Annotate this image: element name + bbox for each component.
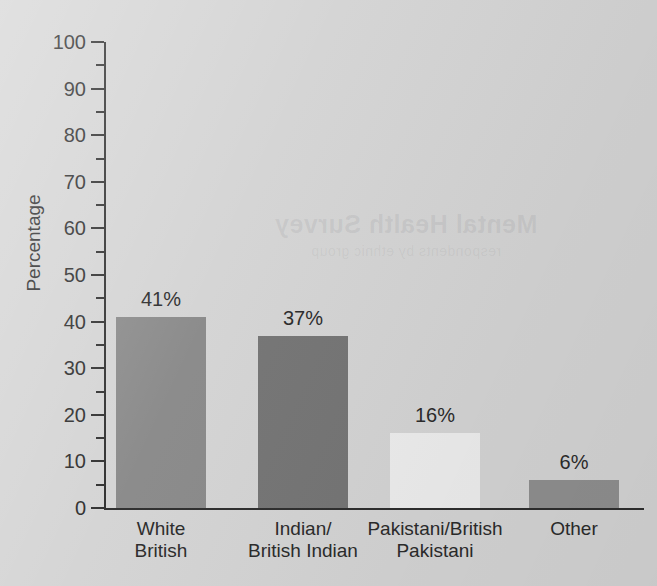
y-tick-major-70: [91, 181, 104, 183]
y-axis-title: Percentage: [23, 163, 45, 323]
y-tick-label-30: 30: [0, 358, 86, 378]
y-tick-minor-65: [96, 204, 104, 206]
bar-value-label: 41%: [96, 289, 226, 309]
bar-value-label: 16%: [370, 405, 500, 425]
y-tick-major-100: [91, 41, 104, 43]
y-tick-minor-15: [96, 437, 104, 439]
y-tick-minor-35: [96, 344, 104, 346]
y-tick-major-0: [91, 507, 104, 509]
y-tick-minor-85: [96, 111, 104, 113]
y-axis-line: [104, 42, 106, 510]
y-tick-major-60: [91, 227, 104, 229]
y-tick-label-100: 100: [0, 32, 86, 52]
y-tick-minor-25: [96, 391, 104, 393]
bar[interactable]: [390, 433, 480, 508]
x-category-label: Other: [494, 518, 654, 540]
bar[interactable]: [529, 480, 619, 508]
y-tick-minor-95: [96, 64, 104, 66]
y-tick-major-10: [91, 460, 104, 462]
y-tick-major-40: [91, 321, 104, 323]
y-tick-label-20: 20: [0, 405, 86, 425]
y-tick-minor-75: [96, 158, 104, 160]
y-tick-major-20: [91, 414, 104, 416]
x-axis-line: [104, 508, 644, 510]
bar[interactable]: [258, 336, 348, 508]
y-tick-major-50: [91, 274, 104, 276]
y-tick-major-90: [91, 88, 104, 90]
y-tick-major-80: [91, 134, 104, 136]
y-tick-label-10: 10: [0, 451, 86, 471]
y-tick-minor-5: [96, 484, 104, 486]
y-tick-label-80: 80: [0, 125, 86, 145]
bar[interactable]: [116, 317, 206, 508]
y-tick-minor-55: [96, 251, 104, 253]
bar-value-label: 37%: [238, 308, 368, 328]
y-tick-label-0: 0: [0, 498, 86, 518]
bar-value-label: 6%: [509, 452, 639, 472]
y-tick-label-90: 90: [0, 79, 86, 99]
bar-chart: 0102030405060708090100 Percentage 41%37%…: [0, 0, 657, 586]
y-tick-major-30: [91, 367, 104, 369]
